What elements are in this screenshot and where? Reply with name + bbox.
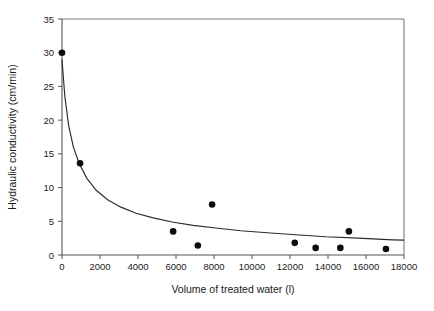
data-point bbox=[346, 228, 353, 235]
x-tick-label: 18000 bbox=[391, 261, 417, 272]
x-tick-label: 8000 bbox=[203, 261, 224, 272]
y-tick-label: 0 bbox=[49, 250, 54, 261]
data-point bbox=[337, 245, 344, 252]
x-tick-label: 14000 bbox=[315, 261, 341, 272]
x-tick-label: 4000 bbox=[127, 261, 148, 272]
data-point bbox=[209, 201, 216, 208]
y-tick-label: 25 bbox=[43, 81, 54, 92]
y-tick-label: 5 bbox=[49, 216, 54, 227]
data-point bbox=[77, 160, 84, 167]
y-tick-label: 20 bbox=[43, 115, 54, 126]
y-tick-label: 10 bbox=[43, 182, 54, 193]
data-point bbox=[383, 246, 390, 253]
x-axis-title: Volume of treated water (l) bbox=[171, 283, 294, 295]
y-tick-label: 15 bbox=[43, 148, 54, 159]
x-tick-label: 16000 bbox=[353, 261, 379, 272]
x-tick-label: 10000 bbox=[239, 261, 265, 272]
data-point bbox=[291, 240, 298, 247]
data-point bbox=[312, 245, 319, 252]
chart-container: 05101520253035 0200040006000800010000120… bbox=[0, 0, 434, 311]
x-tick-label: 12000 bbox=[277, 261, 303, 272]
y-axis-title: Hydraulic conductivity (cm/min) bbox=[6, 64, 18, 209]
data-point bbox=[59, 49, 66, 56]
y-tick-label: 30 bbox=[43, 47, 54, 58]
scatter-plot-figure: 05101520253035 0200040006000800010000120… bbox=[0, 0, 434, 311]
data-point bbox=[170, 228, 177, 235]
y-tick-label: 35 bbox=[43, 14, 54, 25]
x-tick-label: 6000 bbox=[165, 261, 186, 272]
x-tick-label: 2000 bbox=[89, 261, 110, 272]
data-point bbox=[195, 242, 202, 249]
x-tick-label: 0 bbox=[59, 261, 64, 272]
